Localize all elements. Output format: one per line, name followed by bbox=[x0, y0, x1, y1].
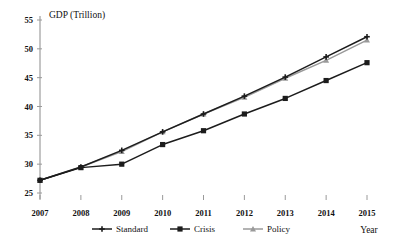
x-tick-label-2010: 2010 bbox=[154, 208, 171, 218]
legend-label-policy: Policy bbox=[267, 224, 291, 234]
x-tick-label-2013: 2013 bbox=[277, 208, 294, 218]
y-tick-label-45: 45 bbox=[25, 73, 34, 83]
datapoint-crisis-2012 bbox=[242, 111, 247, 116]
x-tick-label-2011: 2011 bbox=[195, 208, 212, 218]
datapoint-crisis-2013 bbox=[283, 96, 288, 101]
series-line-crisis bbox=[40, 63, 367, 181]
x-tick-label-2008: 2008 bbox=[72, 208, 89, 218]
y-tick-label-25: 25 bbox=[25, 188, 34, 198]
legend-marker-crisis bbox=[177, 226, 182, 231]
x-axis-title: Year bbox=[360, 225, 378, 235]
y-axis-title: GDP (Trillion) bbox=[49, 10, 105, 21]
y-tick-label-40: 40 bbox=[25, 102, 34, 112]
datapoint-crisis-2015 bbox=[364, 60, 369, 65]
legend-label-crisis: Crisis bbox=[194, 224, 216, 234]
x-tick-label-2012: 2012 bbox=[236, 208, 253, 218]
y-tick-label-30: 30 bbox=[25, 159, 34, 169]
chart-canvas: 5550454035302520072008200920102011201220… bbox=[0, 0, 406, 251]
datapoint-crisis-2009 bbox=[119, 162, 124, 167]
x-tick-label-2009: 2009 bbox=[113, 208, 130, 218]
x-tick-label-2015: 2015 bbox=[359, 208, 376, 218]
x-tick-label-2014: 2014 bbox=[318, 208, 336, 218]
x-tick-label-2007: 2007 bbox=[32, 208, 50, 218]
gdp-line-chart: 5550454035302520072008200920102011201220… bbox=[0, 0, 406, 251]
datapoint-crisis-2010 bbox=[160, 142, 165, 147]
y-tick-label-55: 55 bbox=[25, 15, 34, 25]
series-line-standard bbox=[40, 37, 367, 181]
y-tick-label-50: 50 bbox=[25, 44, 34, 54]
datapoint-crisis-2014 bbox=[324, 78, 329, 83]
datapoint-crisis-2011 bbox=[201, 128, 206, 133]
y-tick-label-35: 35 bbox=[25, 130, 34, 140]
legend-label-standard: Standard bbox=[116, 224, 148, 234]
